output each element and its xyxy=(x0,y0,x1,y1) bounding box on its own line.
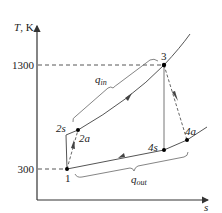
state-2s-label: 2s xyxy=(56,122,66,134)
state-3-point xyxy=(162,63,166,67)
process-1-2a xyxy=(67,130,78,169)
q-in-brace xyxy=(73,59,158,122)
state-1-label: 1 xyxy=(65,172,71,184)
state-4a-point xyxy=(185,138,189,142)
state-4s-label: 4s xyxy=(148,141,158,153)
state-2a-label: 2a xyxy=(79,132,91,144)
x-axis-label: s xyxy=(204,201,208,213)
y-axis-label: T, K xyxy=(14,21,34,33)
state-4a-label: 4a xyxy=(185,125,197,137)
q-out-label: qout xyxy=(131,173,148,187)
tick-1300: 1300 xyxy=(12,59,35,71)
process-3-4a xyxy=(164,65,187,140)
arrow-heat-in xyxy=(125,93,132,101)
arrow-heat-out xyxy=(118,153,125,158)
state-1-point xyxy=(65,167,69,171)
state-3-label: 3 xyxy=(161,50,167,62)
arrow-1-2a xyxy=(71,140,75,149)
tick-300: 300 xyxy=(18,163,35,175)
q-in-label: qin xyxy=(95,73,107,87)
state-4s-point xyxy=(162,148,166,152)
ts-diagram: T, K s 1300 300 qin qout 1 2s 2a 3 4s 4a xyxy=(0,0,222,213)
isobar-high xyxy=(66,34,190,135)
process-1-2s xyxy=(66,135,67,169)
